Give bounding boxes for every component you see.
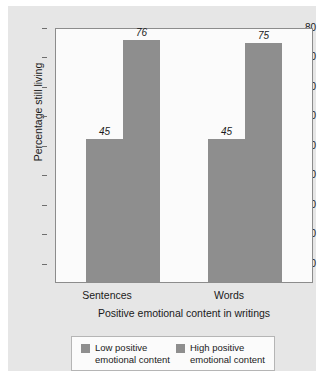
- x-tick-label-words: Words: [177, 289, 281, 301]
- y-tick-mark-70: [42, 57, 47, 58]
- legend-label-high: High positiveemotional content: [190, 342, 265, 365]
- bar-value-sentences-low: 45: [86, 126, 123, 137]
- y-tick-mark-10: [42, 234, 47, 235]
- plot-frame: 45 76 45 75: [55, 28, 313, 283]
- legend-label-low: Low positiveemotional content: [95, 342, 170, 365]
- x-axis-label: Positive emotional content in writings: [55, 307, 313, 319]
- legend-swatch-icon-low: [81, 344, 90, 353]
- plot-area: 45 76 45 75: [56, 29, 312, 282]
- bar-chart-figure: Percentage still living 80 70 60 50 40 3…: [0, 0, 324, 382]
- chart-legend: Low positiveemotional content High posit…: [71, 336, 275, 371]
- legend-label-low-line1: Low positive: [95, 342, 147, 353]
- bar-value-sentences-high: 76: [123, 27, 160, 38]
- legend-entry-low[interactable]: Low positiveemotional content: [81, 342, 170, 365]
- legend-label-high-line2: emotional content: [190, 354, 265, 365]
- legend-entry-high[interactable]: High positiveemotional content: [176, 342, 265, 365]
- legend-label-low-line2: emotional content: [95, 354, 170, 365]
- y-tick-mark-40: [42, 146, 47, 147]
- y-axis-label: Percentage still living: [32, 0, 44, 262]
- x-tick-label-sentences: Sentences: [55, 289, 159, 301]
- figure-canvas: Percentage still living 80 70 60 50 40 3…: [8, 6, 316, 371]
- legend-swatch-icon-high: [176, 344, 185, 353]
- y-tick-mark-0: [42, 264, 47, 265]
- bar-value-words-high: 75: [245, 30, 282, 41]
- y-tick-mark-60: [42, 87, 47, 88]
- bar-sentences-high[interactable]: [123, 40, 160, 282]
- y-tick-mark-20: [42, 205, 47, 206]
- bar-words-high[interactable]: [245, 43, 282, 282]
- bar-sentences-low[interactable]: [86, 139, 123, 282]
- y-tick-mark-80: [42, 28, 47, 29]
- y-tick-mark-50: [42, 116, 47, 117]
- bar-value-words-low: 45: [208, 126, 245, 137]
- y-tick-mark-30: [42, 175, 47, 176]
- legend-label-high-line1: High positive: [190, 342, 244, 353]
- bar-words-low[interactable]: [208, 139, 245, 282]
